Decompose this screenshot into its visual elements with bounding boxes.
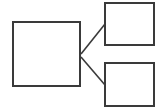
child-node-bottom bbox=[104, 62, 155, 107]
edge-root-to-bottom bbox=[81, 57, 105, 85]
child-node-top bbox=[104, 2, 155, 46]
edge-root-to-top bbox=[81, 24, 105, 54]
root-node bbox=[12, 21, 81, 87]
